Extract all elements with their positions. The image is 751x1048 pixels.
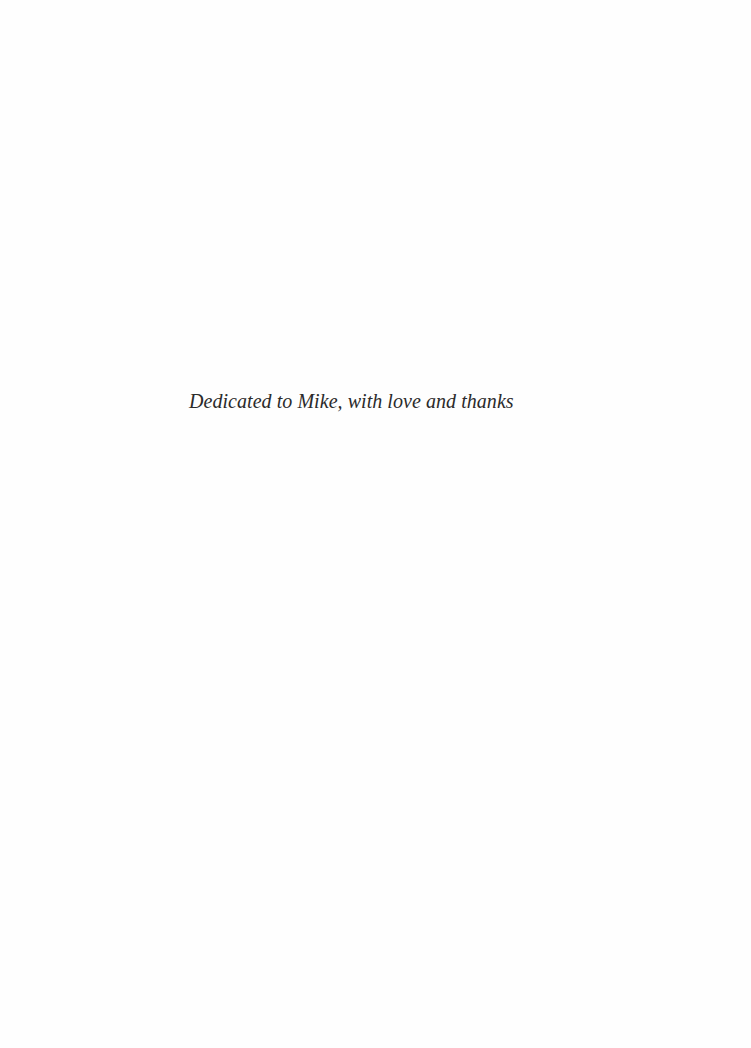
dedication-page: Dedicated to Mike, with love and thanks <box>0 0 751 1048</box>
dedication-text: Dedicated to Mike, with love and thanks <box>189 389 514 413</box>
